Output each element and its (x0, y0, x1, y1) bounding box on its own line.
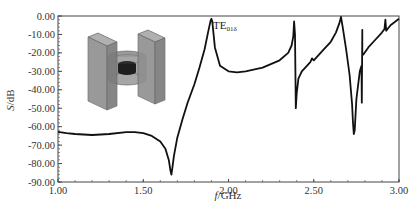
y-tick-label: 0.00 (37, 11, 55, 22)
y-axis-title: S/dB (4, 89, 16, 110)
y-axis-ticks: 0.00-10.00-20.00-30.00-40.00-50.00-60.00… (28, 11, 62, 188)
y-tick-label: -20.00 (28, 47, 55, 58)
y-tick-label: -30.00 (28, 66, 55, 77)
x-tick-label: 1.50 (134, 185, 152, 196)
y-tick-label: -60.00 (28, 121, 55, 132)
x-tick-label: 2.50 (305, 185, 323, 196)
s-parameter-chart: 0.00-10.00-20.00-30.00-40.00-50.00-60.00… (0, 0, 414, 216)
resonator-inset-image (88, 30, 165, 110)
y-tick-label: -50.00 (28, 103, 55, 114)
mode-annotation-te01d: TE01δ (213, 19, 237, 33)
y-tick-label: -80.00 (28, 158, 55, 169)
y-tick-label: -10.00 (28, 29, 55, 40)
x-axis-title: f/GHz (215, 189, 242, 201)
x-tick-label: 3.00 (390, 185, 408, 196)
x-tick-label: 1.00 (49, 185, 67, 196)
y-tick-label: -70.00 (28, 140, 55, 151)
y-tick-label: -40.00 (28, 84, 55, 95)
